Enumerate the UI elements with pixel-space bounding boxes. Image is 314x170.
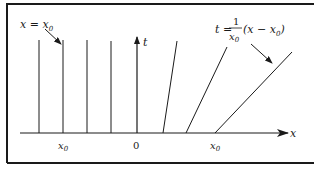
tick-label-neg-x0: x0 [58, 140, 69, 153]
x-axis-label: x [290, 127, 297, 140]
svg-text:x0: x0 [229, 31, 240, 44]
characteristics-diagram: x = x0 t x t = 1 x0 (x − x0) x0 0 x0 [0, 0, 314, 170]
annotation-arrow-slanted [251, 44, 272, 63]
slanted-lines-formula: t = 1 x0 (x − x0) [215, 16, 285, 44]
svg-text:(x − x0): (x − x0) [243, 23, 285, 38]
slanted-characteristic-line [215, 52, 292, 133]
slanted-characteristic-line [186, 47, 227, 133]
vertical-lines-label: x = x0 [20, 18, 54, 33]
tick-label-pos-x0: x0 [210, 140, 221, 153]
tick-label-origin: 0 [133, 140, 139, 151]
svg-text:1: 1 [233, 16, 239, 27]
t-axis-label: t [143, 36, 148, 49]
slanted-characteristic-line [163, 41, 177, 133]
